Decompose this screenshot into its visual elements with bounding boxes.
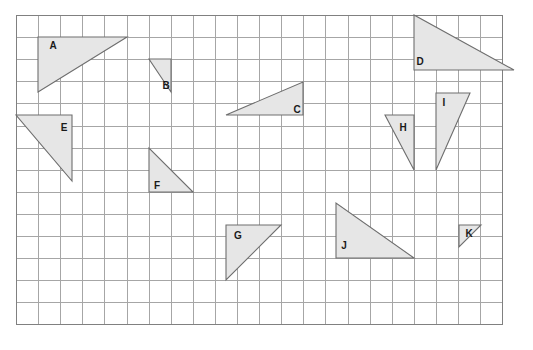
triangle-d[interactable] xyxy=(414,15,514,70)
triangle-j[interactable] xyxy=(336,203,414,258)
triangle-label-k: K xyxy=(465,228,473,239)
triangle-label-e: E xyxy=(61,122,68,133)
triangle-label-c: C xyxy=(293,104,300,115)
triangle-label-j: J xyxy=(341,240,347,251)
triangle-label-g: G xyxy=(234,230,242,241)
triangle-label-i: I xyxy=(443,97,446,108)
triangle-label-f: F xyxy=(154,180,160,191)
triangle-label-d: D xyxy=(416,56,423,67)
triangles-layer xyxy=(16,15,514,280)
triangle-label-h: H xyxy=(399,122,406,133)
triangle-label-b: B xyxy=(162,80,169,91)
triangle-i[interactable] xyxy=(436,93,470,170)
grid-figure: ABCDEFGHIJK xyxy=(0,0,533,350)
worksheet-canvas: ABCDEFGHIJK xyxy=(0,0,533,350)
triangle-label-a: A xyxy=(49,40,56,51)
